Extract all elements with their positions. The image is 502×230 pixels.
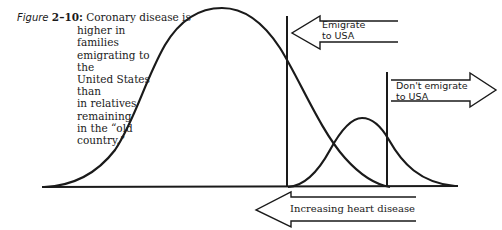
caption-head: Figure 2–10: Coronary disease is [17, 11, 167, 24]
dont-emigrate-label-line2: to USA [396, 91, 468, 102]
caption-line: country.” [77, 134, 167, 146]
caption-line: remaining [77, 110, 167, 122]
figure-canvas: Figure 2–10: Coronary disease is higher … [0, 0, 502, 230]
dont-emigrate-label: Don't emigrate to USA [396, 80, 468, 102]
caption-line: Coronary disease is [86, 11, 191, 23]
emigrate-label-line2: to USA [322, 30, 365, 41]
caption-line: in relatives [77, 97, 167, 109]
dont-emigrate-label-line1: Don't emigrate [396, 80, 468, 91]
heart-disease-label: Increasing heart disease [290, 203, 415, 214]
caption-body: higher in families emigrating to the Uni… [17, 24, 167, 146]
caption-line: United States than [77, 73, 167, 97]
baseline-axis [42, 186, 458, 187]
emigrate-label-line1: Emigrate [322, 19, 365, 30]
figure-number: 2–10: [52, 11, 83, 23]
figure-label: Figure [17, 12, 48, 23]
figure-caption: Figure 2–10: Coronary disease is higher … [17, 11, 167, 146]
caption-line: in the “old [77, 122, 167, 134]
caption-line: higher in families [77, 24, 167, 48]
emigrate-label: Emigrate to USA [322, 19, 365, 41]
caption-line: emigrating to the [77, 49, 167, 73]
small-distribution-curve [288, 118, 455, 187]
